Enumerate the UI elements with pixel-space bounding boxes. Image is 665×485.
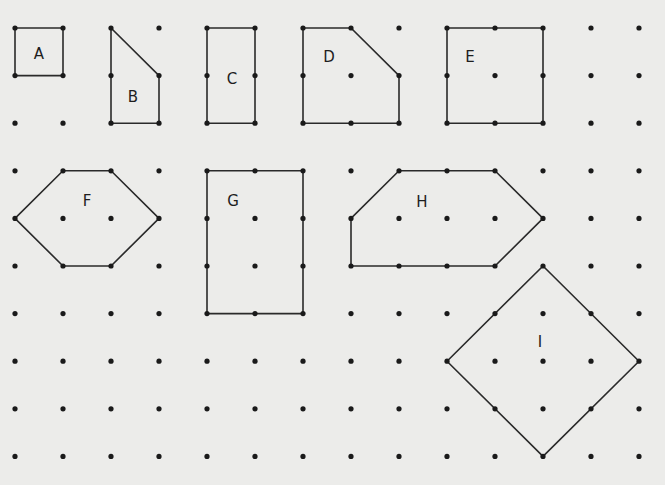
grid-dot [12, 25, 17, 30]
grid-dot [60, 359, 65, 364]
grid-dot [396, 454, 401, 459]
grid-dot [540, 25, 545, 30]
grid-dot [252, 311, 257, 316]
grid-dot [588, 121, 593, 126]
grid-dot [252, 25, 257, 30]
grid-dot [60, 216, 65, 221]
grid-dot [252, 406, 257, 411]
shape-label-c: C [227, 70, 237, 88]
grid-dot [156, 263, 161, 268]
grid-dot [540, 168, 545, 173]
grid-dot [540, 359, 545, 364]
grid-dot [108, 454, 113, 459]
grid-dot [444, 263, 449, 268]
grid-dot [252, 454, 257, 459]
grid-dot [12, 263, 17, 268]
shape-label-b: B [128, 88, 138, 106]
grid-dot [12, 73, 17, 78]
grid-dot [636, 359, 641, 364]
grid-dot [540, 311, 545, 316]
grid-dot [540, 216, 545, 221]
grid-dot [444, 406, 449, 411]
grid-dot [588, 406, 593, 411]
grid-dot [492, 168, 497, 173]
grid-dot [252, 263, 257, 268]
grid-dot [396, 406, 401, 411]
grid-dot [492, 121, 497, 126]
grid-dot [60, 406, 65, 411]
grid-dot [636, 121, 641, 126]
grid-dot [12, 121, 17, 126]
grid-dot [636, 263, 641, 268]
grid-dot [444, 73, 449, 78]
grid-dot [636, 311, 641, 316]
grid-dot [540, 263, 545, 268]
grid-dot [300, 454, 305, 459]
grid-dot [60, 311, 65, 316]
grid-dot [444, 454, 449, 459]
grid-dot [156, 454, 161, 459]
grid-dot [108, 311, 113, 316]
grid-dot [108, 25, 113, 30]
grid-dot [348, 168, 353, 173]
grid-dot [348, 406, 353, 411]
grid-dot [300, 311, 305, 316]
grid-dot [348, 25, 353, 30]
grid-dot [300, 121, 305, 126]
grid-dot [444, 121, 449, 126]
grid-dot [540, 73, 545, 78]
grid-dot [156, 168, 161, 173]
grid-dot [444, 359, 449, 364]
grid-dot [252, 359, 257, 364]
grid-dot [300, 168, 305, 173]
grid-dot [588, 168, 593, 173]
grid-dot [108, 263, 113, 268]
grid-dot [348, 454, 353, 459]
grid-dot [492, 454, 497, 459]
grid-dot [204, 406, 209, 411]
grid-dot [396, 25, 401, 30]
grid-dot [156, 216, 161, 221]
grid-dot [396, 168, 401, 173]
grid-dot [300, 216, 305, 221]
paper-background [0, 0, 665, 485]
grid-dot [444, 216, 449, 221]
shape-label-d: D [323, 48, 335, 66]
grid-dot [252, 216, 257, 221]
grid-dot [204, 216, 209, 221]
grid-dot [300, 359, 305, 364]
grid-dot [204, 311, 209, 316]
grid-dot [156, 359, 161, 364]
grid-dot [156, 121, 161, 126]
grid-dot [396, 216, 401, 221]
grid-dot [204, 454, 209, 459]
grid-dot [444, 25, 449, 30]
shape-label-i: I [538, 333, 542, 351]
grid-dot [300, 73, 305, 78]
grid-dot [60, 25, 65, 30]
grid-dot [348, 216, 353, 221]
grid-dot [444, 311, 449, 316]
grid-dot [12, 359, 17, 364]
grid-dot [540, 121, 545, 126]
grid-dot [492, 216, 497, 221]
grid-dot [396, 121, 401, 126]
grid-dot [588, 454, 593, 459]
grid-dot [156, 25, 161, 30]
grid-dot [156, 311, 161, 316]
grid-dot [588, 359, 593, 364]
grid-dot [636, 168, 641, 173]
grid-dot [204, 168, 209, 173]
grid-dot [60, 121, 65, 126]
grid-dot [492, 73, 497, 78]
grid-dot [444, 168, 449, 173]
grid-dot [156, 73, 161, 78]
grid-dot [300, 406, 305, 411]
shape-label-a: A [34, 45, 45, 63]
grid-dot [60, 454, 65, 459]
grid-dot [60, 73, 65, 78]
grid-dot [348, 359, 353, 364]
shape-label-g: G [227, 192, 239, 210]
dot-grid-diagram: ABCDEFGHI [0, 0, 665, 485]
grid-dot [252, 73, 257, 78]
